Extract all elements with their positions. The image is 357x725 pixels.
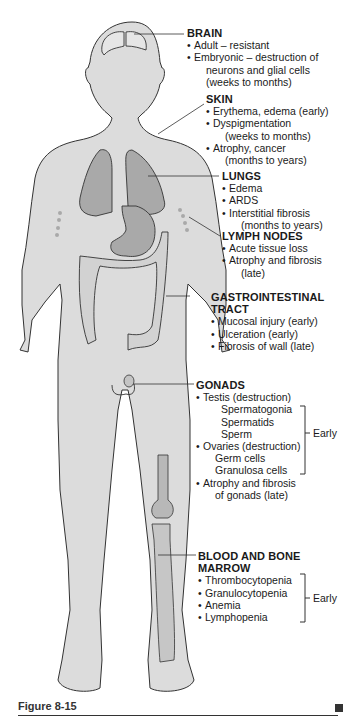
gi-item: Ulceration (early) <box>211 328 324 340</box>
lungs-item: Edema <box>222 182 323 194</box>
blood-early-label: Early <box>313 592 337 604</box>
skin-item: Atrophy, cancer (months to years) <box>206 142 329 166</box>
lungs-item: ARDS <box>222 194 323 206</box>
gonads-title: GONADS <box>196 379 300 391</box>
gonads-item: Testis (destruction) Spermatogonia Sperm… <box>196 391 300 440</box>
blood-title-1: BLOOD AND BONE <box>198 550 300 562</box>
skin-item: Dyspigmentation (weeks to months) <box>206 117 329 141</box>
gi-title-1: GASTROINTESTINAL <box>211 291 324 303</box>
figure-caption: Figure 8-15 <box>18 700 77 712</box>
gonads-item: Ovaries (destruction) Germ cells Granulo… <box>196 440 300 477</box>
brain-label: BRAIN Adult – resistant Embryonic – dest… <box>187 27 318 88</box>
gonads-item: Atrophy and fibrosis of gonads (late) <box>196 477 300 501</box>
gi-item: Fibrosis of wall (late) <box>211 340 324 352</box>
blood-item: Thrombocytopenia <box>198 574 300 586</box>
lungs-label: LUNGS Edema ARDS Interstitial fibrosis (… <box>222 170 323 231</box>
skin-item: Erythema, edema (early) <box>206 105 329 117</box>
blood-title-2: MARROW <box>198 562 300 574</box>
brain-title: BRAIN <box>187 27 318 39</box>
blood-item: Granulocytopenia <box>198 587 300 599</box>
early-brackets <box>300 406 310 622</box>
lymph-item: Acute tissue loss <box>222 242 322 254</box>
blood-item: Anemia <box>198 599 300 611</box>
brain-item: Embryonic – destruction of neurons and g… <box>187 51 318 88</box>
blood-marrow-label: BLOOD AND BONE MARROW Thrombocytopenia G… <box>198 550 300 623</box>
skin-label: SKIN Erythema, edema (early) Dyspigmenta… <box>206 93 329 166</box>
gi-tract-label: GASTROINTESTINAL TRACT Mucosal injury (e… <box>211 291 324 352</box>
lungs-title: LUNGS <box>222 170 323 182</box>
gonads-early-label: Early <box>313 427 337 439</box>
caption-rule <box>18 715 338 716</box>
gonads-label: GONADS Testis (destruction) Spermatogoni… <box>196 379 300 501</box>
brain-item: Adult – resistant <box>187 39 318 51</box>
gi-title-2: TRACT <box>211 303 324 315</box>
lymph-item: Atrophy and fibrosis (late) <box>222 254 322 278</box>
lymph-nodes-title: LYMPH NODES <box>222 230 322 242</box>
skin-title: SKIN <box>206 93 329 105</box>
gi-item: Mucosal injury (early) <box>211 315 324 327</box>
lungs-item: Interstitial fibrosis (months to years) <box>222 207 323 231</box>
end-mark-icon <box>335 704 343 712</box>
testis-organ <box>124 375 134 387</box>
blood-item: Lymphopenia <box>198 611 300 623</box>
lymph-nodes-label: LYMPH NODES Acute tissue loss Atrophy an… <box>222 230 322 279</box>
